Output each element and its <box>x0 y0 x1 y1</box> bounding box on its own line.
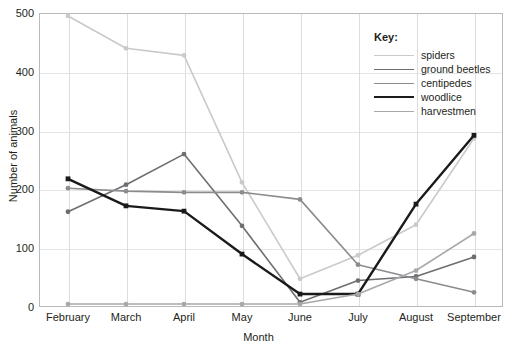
legend-rows: spidersground beetlescentipedeswoodliceh… <box>374 48 490 118</box>
series-line <box>68 234 474 305</box>
data-point <box>182 209 187 214</box>
data-point <box>472 290 477 295</box>
data-point <box>66 186 71 191</box>
legend-swatch-line <box>374 96 414 98</box>
data-point <box>356 278 361 283</box>
legend-item-ground-beetles: ground beetles <box>374 62 490 76</box>
legend-swatch-line <box>374 69 414 70</box>
data-point <box>472 133 477 138</box>
series-ground-beetles <box>66 152 477 305</box>
legend-item-spiders: spiders <box>374 48 490 62</box>
legend-item-woodlice: woodlice <box>374 90 490 104</box>
series-line <box>68 154 474 302</box>
data-point <box>414 276 419 281</box>
data-point <box>66 176 71 181</box>
legend-title: Key: <box>374 30 490 44</box>
legend-swatch-line <box>374 55 414 56</box>
legend-label: ground beetles <box>421 62 490 76</box>
line-chart: 0100200300400500 FebruaryMarchAprilMayJu… <box>0 0 517 346</box>
data-point <box>182 152 187 157</box>
data-point <box>414 202 419 207</box>
data-point <box>472 255 477 260</box>
data-point <box>124 203 129 208</box>
data-point <box>124 189 129 194</box>
legend-label: centipedes <box>421 76 472 90</box>
series-harvestmen <box>66 231 477 306</box>
legend: Key: spidersground beetlescentipedeswood… <box>374 30 490 118</box>
data-point <box>182 302 187 307</box>
legend-swatch-line <box>374 83 414 84</box>
data-point <box>124 46 129 51</box>
data-point <box>66 302 71 307</box>
data-point <box>240 190 245 195</box>
data-point <box>240 302 245 307</box>
data-point <box>414 222 419 227</box>
data-point <box>240 223 245 228</box>
data-point <box>298 292 303 297</box>
legend-label: woodlice <box>421 90 462 104</box>
legend-item-harvestmen: harvestmen <box>374 104 490 118</box>
data-point <box>240 180 245 185</box>
data-point <box>414 268 419 273</box>
data-point <box>240 252 245 257</box>
data-point <box>298 302 303 307</box>
legend-item-centipedes: centipedes <box>374 76 490 90</box>
data-point <box>66 209 71 214</box>
data-point <box>356 262 361 267</box>
data-point <box>472 231 477 236</box>
legend-label: harvestmen <box>421 104 476 118</box>
data-point <box>182 190 187 195</box>
data-point <box>124 182 129 187</box>
data-point <box>298 197 303 202</box>
data-point <box>66 14 71 19</box>
data-point <box>356 253 361 258</box>
data-point <box>356 292 361 297</box>
series-line <box>68 135 474 294</box>
data-point <box>298 276 303 281</box>
legend-swatch-line <box>374 111 414 112</box>
data-point <box>124 302 129 307</box>
legend-label: spiders <box>421 48 455 62</box>
data-point <box>182 53 187 58</box>
